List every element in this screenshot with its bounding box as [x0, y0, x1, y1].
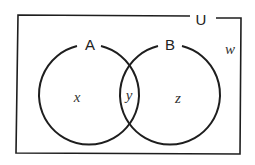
set-a-label: A	[85, 36, 95, 53]
region-only-a-label: x	[73, 89, 81, 105]
circle-b	[120, 46, 220, 145]
universe-label: U	[196, 11, 207, 28]
venn-diagram: U A B w x y z	[0, 0, 255, 165]
region-a-and-b-label: y	[124, 87, 133, 103]
circle-a	[39, 46, 139, 145]
region-only-b-label: z	[174, 90, 181, 106]
universe-rectangle	[16, 15, 241, 154]
set-b-label: B	[165, 36, 175, 53]
region-outside-label: w	[225, 41, 235, 57]
